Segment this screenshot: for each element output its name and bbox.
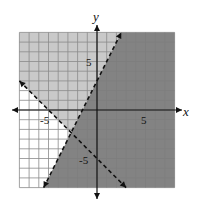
x-axis-arrow-left bbox=[12, 107, 18, 113]
x-tick-label-5: 5 bbox=[141, 114, 147, 126]
y-tick-label-5: 5 bbox=[86, 56, 92, 68]
y-axis-arrow-down bbox=[94, 193, 100, 199]
x-axis-label: x bbox=[182, 104, 189, 119]
y-axis-arrow-up bbox=[94, 25, 100, 31]
x-axis-arrow-right bbox=[176, 107, 182, 113]
x-tick-label-neg5: -5 bbox=[40, 114, 50, 126]
y-axis-label: y bbox=[91, 9, 99, 24]
inequality-graph: x y 5 -5 5 -5 bbox=[0, 0, 199, 209]
y-tick-label-neg5: -5 bbox=[79, 154, 89, 166]
